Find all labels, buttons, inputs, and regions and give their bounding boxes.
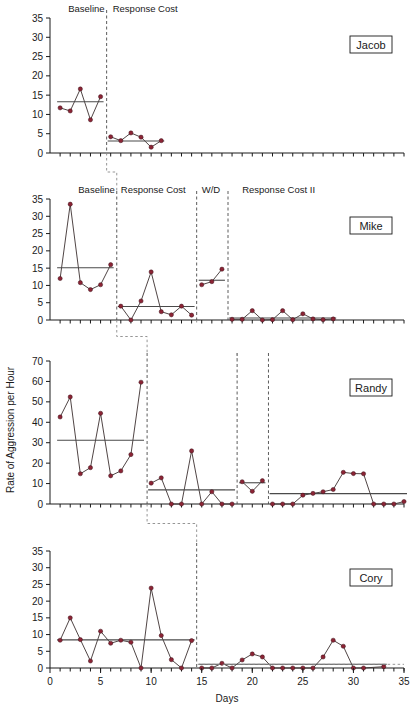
data-point bbox=[119, 304, 123, 308]
data-point bbox=[392, 502, 396, 506]
data-point bbox=[139, 380, 143, 384]
data-point bbox=[220, 267, 224, 271]
data-point bbox=[220, 661, 224, 665]
phase-header-label: Response Cost II bbox=[242, 184, 315, 195]
data-point bbox=[291, 666, 295, 670]
data-point bbox=[382, 502, 386, 506]
phase-header-label: Response Cost bbox=[113, 3, 178, 14]
data-point bbox=[169, 313, 173, 317]
x-tick-label: 0 bbox=[47, 676, 53, 687]
data-point bbox=[210, 490, 214, 494]
data-point bbox=[321, 318, 325, 322]
data-point bbox=[270, 502, 274, 506]
y-tick-label: 15 bbox=[32, 612, 44, 623]
data-point bbox=[230, 502, 234, 506]
data-point bbox=[179, 666, 183, 670]
x-tick-label: 10 bbox=[146, 676, 158, 687]
data-point bbox=[321, 655, 325, 659]
data-point bbox=[119, 638, 123, 642]
data-point bbox=[139, 299, 143, 303]
data-point bbox=[301, 312, 305, 316]
data-point bbox=[58, 276, 62, 280]
phase-header-label: Baseline bbox=[68, 3, 104, 14]
data-point bbox=[250, 652, 254, 656]
data-point bbox=[270, 666, 274, 670]
subject-label: Mike bbox=[359, 220, 382, 232]
x-axis-title: Days bbox=[216, 693, 239, 704]
data-point bbox=[98, 283, 102, 287]
data-point bbox=[139, 666, 143, 670]
series-line-jacob-0 bbox=[60, 89, 100, 120]
data-point bbox=[149, 270, 153, 274]
x-tick-label: 25 bbox=[297, 676, 309, 687]
data-point bbox=[98, 95, 102, 99]
subject-label: Randy bbox=[355, 382, 387, 394]
data-point bbox=[68, 616, 72, 620]
data-point bbox=[240, 658, 244, 662]
data-point bbox=[200, 283, 204, 287]
data-point bbox=[68, 202, 72, 206]
data-point bbox=[78, 472, 82, 476]
y-tick-label: 5 bbox=[37, 128, 43, 139]
data-point bbox=[270, 318, 274, 322]
data-point bbox=[109, 474, 113, 478]
y-tick-label: 5 bbox=[37, 646, 43, 657]
x-tick-label: 30 bbox=[348, 676, 360, 687]
y-tick-label: 10 bbox=[32, 109, 44, 120]
data-point bbox=[129, 640, 133, 644]
y-tick-label: 35 bbox=[32, 194, 44, 205]
y-tick-label: 60 bbox=[32, 376, 44, 387]
data-point bbox=[230, 317, 234, 321]
x-tick-label: 15 bbox=[196, 676, 208, 687]
x-tick-label: 20 bbox=[247, 676, 259, 687]
data-point bbox=[311, 491, 315, 495]
data-point bbox=[58, 415, 62, 419]
y-tick-label: 35 bbox=[32, 546, 44, 557]
data-point bbox=[58, 638, 62, 642]
y-tick-label: 30 bbox=[32, 32, 44, 43]
y-tick-label: 10 bbox=[32, 629, 44, 640]
subject-label: Cory bbox=[359, 572, 383, 584]
data-point bbox=[311, 317, 315, 321]
data-point bbox=[149, 586, 153, 590]
y-tick-label: 15 bbox=[32, 90, 44, 101]
data-point bbox=[109, 641, 113, 645]
y-tick-label: 10 bbox=[32, 280, 44, 291]
y-tick-label: 50 bbox=[32, 396, 44, 407]
y-tick-label: 20 bbox=[32, 245, 44, 256]
y-tick-label: 0 bbox=[37, 315, 43, 326]
y-tick-label: 0 bbox=[37, 499, 43, 510]
data-point bbox=[139, 135, 143, 139]
series-line-cory-0 bbox=[60, 588, 191, 668]
data-point bbox=[190, 313, 194, 317]
y-tick-label: 15 bbox=[32, 263, 44, 274]
panel-cory: 05101520253035Cory bbox=[32, 543, 404, 674]
data-point bbox=[291, 318, 295, 322]
data-point bbox=[260, 655, 264, 659]
data-point bbox=[341, 644, 345, 648]
data-point bbox=[149, 145, 153, 149]
panel-mike: 05101520253035Mike bbox=[32, 191, 404, 326]
series-line-mike-1 bbox=[121, 272, 192, 320]
data-point bbox=[301, 493, 305, 497]
data-point bbox=[240, 480, 244, 484]
data-point bbox=[220, 502, 224, 506]
data-point bbox=[109, 135, 113, 139]
data-point bbox=[200, 502, 204, 506]
y-tick-label: 40 bbox=[32, 417, 44, 428]
subject-label: Jacob bbox=[356, 39, 385, 51]
data-point bbox=[88, 659, 92, 663]
y-tick-label: 20 bbox=[32, 596, 44, 607]
data-point bbox=[372, 502, 376, 506]
y-tick-label: 20 bbox=[32, 458, 44, 469]
data-point bbox=[159, 633, 163, 637]
data-point bbox=[159, 139, 163, 143]
data-point bbox=[129, 452, 133, 456]
phase-header-label: W/D bbox=[202, 184, 221, 195]
data-point bbox=[361, 666, 365, 670]
y-tick-label: 70 bbox=[32, 356, 44, 367]
chart-root: Rate of Aggression per Hour0510152025303… bbox=[5, 3, 410, 704]
panel-jacob: 05101520253035Jacob bbox=[32, 10, 404, 159]
y-tick-label: 0 bbox=[37, 663, 43, 674]
data-point bbox=[331, 317, 335, 321]
